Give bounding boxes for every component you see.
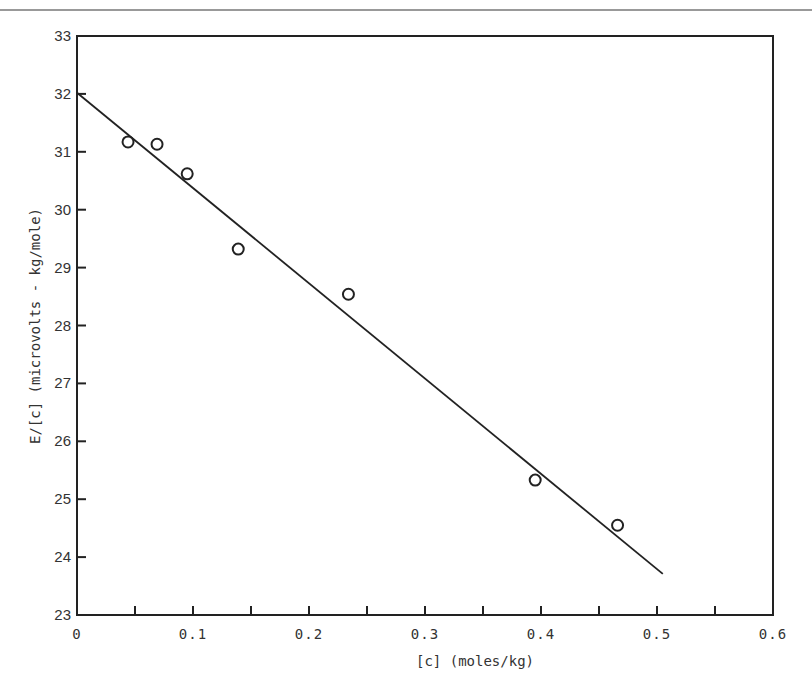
data-points bbox=[123, 136, 624, 530]
x-tick-label: 0.3 bbox=[411, 626, 439, 642]
x-tick-label: 0.4 bbox=[527, 626, 555, 642]
y-tick-label: 27 bbox=[54, 374, 71, 391]
y-axis-label: E/[c] (microvolts - kg/mole) bbox=[27, 208, 43, 444]
y-tick-label: 32 bbox=[54, 85, 71, 102]
data-point-marker bbox=[182, 168, 193, 179]
y-tick-label: 24 bbox=[54, 548, 71, 565]
data-point-marker bbox=[343, 289, 354, 300]
data-point-marker bbox=[233, 244, 244, 255]
y-tick-label: 26 bbox=[54, 432, 71, 449]
y-tick-label: 31 bbox=[54, 143, 71, 160]
y-tick-label: 23 bbox=[54, 606, 71, 623]
y-tick-label: 30 bbox=[54, 201, 71, 218]
y-tick-label: 29 bbox=[54, 259, 71, 276]
x-tick-label: 0 bbox=[72, 626, 81, 642]
fit-line bbox=[77, 93, 663, 574]
data-point-marker bbox=[123, 136, 134, 147]
data-point-marker bbox=[612, 520, 623, 531]
x-tick-label: 0.6 bbox=[759, 626, 787, 642]
x-tick-label: 0.2 bbox=[295, 626, 323, 642]
chart: 2324252627282930313233 00.10.20.30.40.50… bbox=[0, 0, 812, 696]
y-axis-ticks: 2324252627282930313233 bbox=[54, 27, 86, 623]
y-tick-label: 28 bbox=[54, 317, 71, 334]
x-tick-label: 0.1 bbox=[179, 626, 207, 642]
data-point-marker bbox=[152, 139, 163, 150]
y-tick-label: 25 bbox=[54, 490, 71, 507]
y-tick-label: 33 bbox=[54, 27, 71, 44]
x-tick-label: 0.5 bbox=[643, 626, 671, 642]
x-axis-ticks: 00.10.20.30.40.50.6 bbox=[72, 606, 787, 642]
data-point-marker bbox=[530, 475, 541, 486]
x-axis-label: [c] (moles/kg) bbox=[416, 653, 534, 669]
plot-frame bbox=[77, 36, 773, 615]
